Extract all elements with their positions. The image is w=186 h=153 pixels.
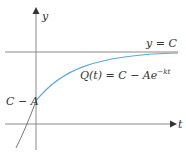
asymptote-label: y = C <box>145 37 177 50</box>
curve-label-exponent: −kt <box>157 68 170 76</box>
curve-label-main: Q(t) = C − Ae <box>80 69 158 82</box>
exponential-approach-diagram: y t y = C C − A Q(t) = C − Ae−kt <box>0 0 186 153</box>
x-axis-label: t <box>178 118 183 131</box>
y-axis-label: y <box>41 10 49 23</box>
diagram-svg: y t y = C C − A Q(t) = C − Ae−kt <box>0 0 186 153</box>
curve-label: Q(t) = C − Ae−kt <box>80 68 170 82</box>
y-axis-arrow-icon <box>33 7 40 14</box>
x-axis-arrow-icon <box>170 121 177 128</box>
intercept-label: C − A <box>6 95 39 108</box>
